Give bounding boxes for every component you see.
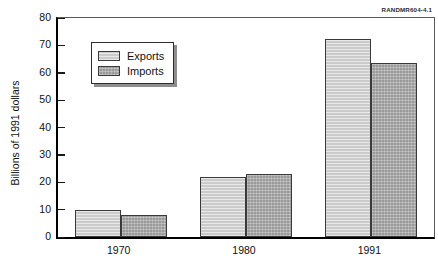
y-axis-tick-label: 60 xyxy=(39,66,51,78)
y-axis-tick-label: 10 xyxy=(39,203,51,215)
legend-swatch-exports xyxy=(98,51,120,61)
y-axis-title-text: Billions of 1991 dollars xyxy=(9,80,21,185)
y-axis-tick-label: 30 xyxy=(39,148,51,160)
bar-imports-1970 xyxy=(121,215,167,237)
chart-legend: ExportsImports xyxy=(91,42,174,84)
bar-exports-1980 xyxy=(200,177,246,237)
legend-swatch-imports xyxy=(98,66,120,76)
bar-imports-1980 xyxy=(246,174,292,237)
bar-exports-1970 xyxy=(75,210,121,237)
y-axis-tick-label: 40 xyxy=(39,121,51,133)
source-figure-id: RANDMR604-4.1 xyxy=(382,6,432,13)
x-axis-tick-label: 1970 xyxy=(107,244,130,256)
y-axis-tick-label: 50 xyxy=(39,93,51,105)
y-axis-tick-label: 70 xyxy=(39,38,51,50)
y-axis-tick-label: 20 xyxy=(39,175,51,187)
y-axis-tick-label: 0 xyxy=(45,230,51,242)
bar-imports-1991 xyxy=(371,63,417,237)
y-axis-tick-label: 80 xyxy=(39,11,51,23)
x-axis-tick-label: 1991 xyxy=(358,244,381,256)
figure-bar-chart: RANDMR604-4.1 Billions of 1991 dollars 0… xyxy=(0,0,438,269)
x-axis-tick-label: 1980 xyxy=(232,244,255,256)
legend-item-exports: Exports xyxy=(98,48,164,63)
bar-group xyxy=(183,18,308,237)
legend-label: Exports xyxy=(127,50,164,62)
legend-label: Imports xyxy=(127,65,164,77)
y-axis-title: Billions of 1991 dollars xyxy=(6,48,24,218)
bar-group xyxy=(309,18,434,237)
legend-item-imports: Imports xyxy=(98,63,164,78)
bar-exports-1991 xyxy=(325,39,371,237)
